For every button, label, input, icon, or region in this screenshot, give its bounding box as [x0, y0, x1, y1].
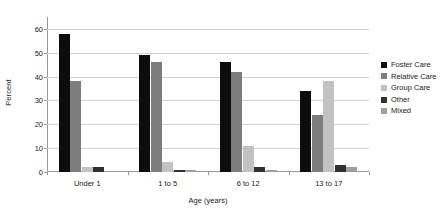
legend-swatch-icon: [381, 108, 387, 114]
bar-group: [300, 17, 358, 172]
bar: [139, 55, 150, 172]
bar: [231, 72, 242, 172]
bar: [346, 167, 357, 172]
y-tick-label: 0: [39, 168, 43, 177]
legend-swatch-icon: [381, 73, 387, 79]
bar: [323, 81, 334, 172]
y-tick-label: 60: [35, 24, 43, 33]
y-tick-label: 40: [35, 72, 43, 81]
x-tick-label: 1 to 5: [158, 179, 177, 188]
bar: [174, 170, 185, 172]
bar: [220, 62, 231, 172]
legend-entry: Relative Care: [381, 71, 436, 83]
legend-entry: Foster Care: [381, 59, 436, 71]
bar: [300, 91, 311, 172]
x-tick-label: 6 to 12: [237, 179, 260, 188]
x-tick-mark: [128, 172, 129, 175]
bar-group: [139, 17, 197, 172]
legend-swatch-icon: [381, 85, 387, 91]
legend-label: Foster Care: [391, 61, 431, 69]
legend-entry: Other: [381, 94, 436, 106]
y-tick-label: 20: [35, 120, 43, 129]
bar: [151, 62, 162, 172]
bar: [162, 162, 173, 172]
legend-swatch-icon: [381, 62, 387, 68]
x-axis-title: Age (years): [47, 196, 369, 205]
legend: Foster CareRelative CareGroup CareOtherM…: [381, 59, 436, 117]
bar: [93, 167, 104, 172]
x-tick-mark: [47, 172, 48, 175]
bar: [335, 165, 346, 172]
legend-label: Mixed: [391, 107, 411, 115]
bar: [254, 167, 265, 172]
x-tick-mark: [289, 172, 290, 175]
y-tick-label: 30: [35, 96, 43, 105]
plot-area: 0102030405060 Under 11 to 56 to 1213 to …: [47, 17, 369, 172]
legend-label: Relative Care: [391, 73, 436, 81]
bar: [312, 115, 323, 172]
bars-layer: [47, 17, 369, 172]
bar: [82, 167, 93, 172]
legend-entry: Group Care: [381, 82, 436, 94]
bar-group: [220, 17, 278, 172]
x-tick-mark: [369, 172, 370, 175]
bar: [266, 170, 277, 172]
bar-chart: Percent 0102030405060 Under 11 to 56 to …: [0, 0, 447, 218]
y-tick-label: 10: [35, 144, 43, 153]
x-tick-mark: [208, 172, 209, 175]
y-axis-title: Percent: [4, 63, 13, 123]
legend-label: Other: [391, 96, 410, 104]
x-tick-label: Under 1: [74, 179, 101, 188]
bar: [243, 146, 254, 172]
legend-entry: Mixed: [381, 105, 436, 117]
legend-swatch-icon: [381, 97, 387, 103]
x-tick-label: 13 to 17: [315, 179, 342, 188]
bar: [185, 170, 196, 172]
bar-group: [59, 17, 117, 172]
bar: [59, 34, 70, 172]
y-tick-label: 50: [35, 48, 43, 57]
bar: [70, 81, 81, 172]
legend-label: Group Care: [391, 84, 430, 92]
